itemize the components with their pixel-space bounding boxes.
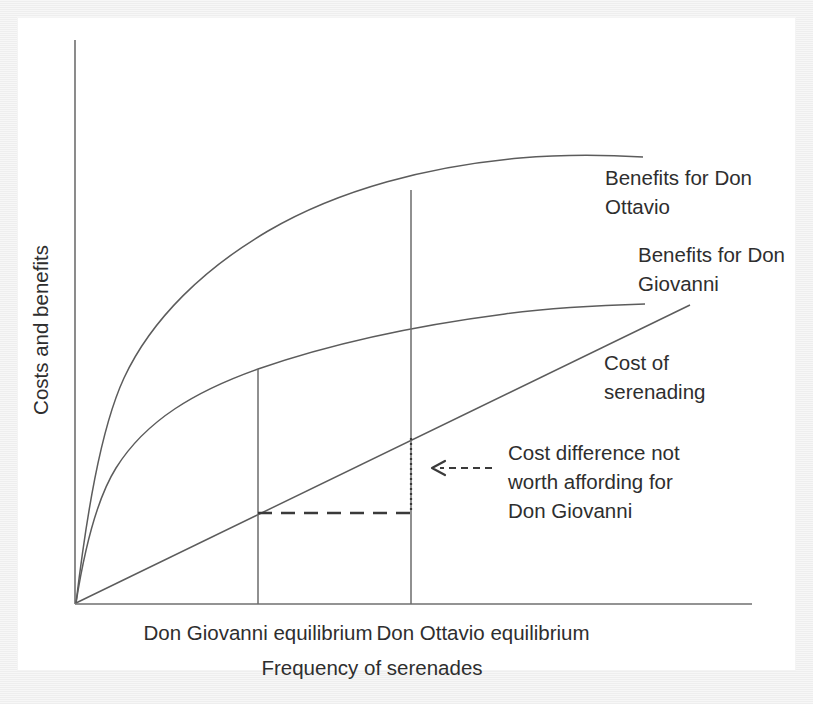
label-diff-line1: Cost difference not (508, 441, 680, 464)
annotation-benefits-don-giovanni: Benefits for Don Giovanni (638, 243, 785, 295)
annotation-benefits-don-ottavio: Benefits for Don Ottavio (605, 166, 752, 218)
scanned-page-frame: Benefits for Don Ottavio Benefits for Do… (0, 0, 813, 704)
cost-difference-arrow (432, 461, 492, 475)
tick-label-don-giovanni-equilibrium: Don Giovanni equilibrium (143, 621, 372, 644)
y-axis-label: Costs and benefits (29, 245, 52, 415)
tick-label-don-ottavio-equilibrium: Don Ottavio equilibrium (376, 621, 589, 644)
label-benefits-ottavio-line1: Benefits for Don (605, 166, 752, 189)
label-cost-line1: Cost of (604, 351, 669, 374)
label-diff-line3: Don Giovanni (508, 499, 632, 522)
x-axis-label: Frequency of serenades (261, 656, 482, 679)
label-diff-line2: worth affording for (507, 470, 673, 493)
annotation-cost-difference: Cost difference not worth affording for … (507, 441, 680, 522)
economics-figure: Benefits for Don Ottavio Benefits for Do… (0, 0, 813, 704)
axes (75, 40, 752, 604)
label-benefits-giovanni-line1: Benefits for Don (638, 243, 785, 266)
label-cost-line2: serenading (604, 380, 705, 403)
annotation-cost-of-serenading: Cost of serenading (604, 351, 705, 403)
label-benefits-ottavio-line2: Ottavio (605, 195, 670, 218)
label-benefits-giovanni-line2: Giovanni (638, 272, 719, 295)
curve-benefits-don-ottavio (76, 155, 643, 603)
